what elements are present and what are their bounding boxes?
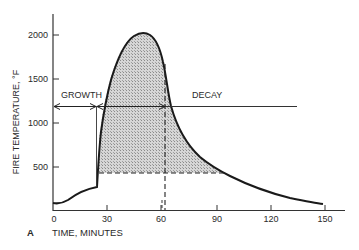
svg-text:90: 90 <box>212 214 222 224</box>
svg-text:1500: 1500 <box>28 74 48 84</box>
x-axis-label: TIME, MINUTES <box>52 227 123 238</box>
svg-text:1000: 1000 <box>28 118 48 128</box>
svg-text:500: 500 <box>33 162 48 172</box>
svg-text:0: 0 <box>51 214 56 224</box>
svg-text:60: 60 <box>156 214 166 224</box>
svg-text:150: 150 <box>317 214 332 224</box>
x-tick-labels: 0 30 60 90 120 150 <box>51 214 332 224</box>
shaded-burn-area <box>99 33 226 173</box>
decay-label: DECAY <box>192 90 222 100</box>
x-ticks <box>107 205 325 210</box>
y-axis-label: FIRE TEMPERATURE, °F <box>11 69 21 174</box>
fire-temperature-chart: 2000 1500 1000 500 0 30 60 90 120 150 TI… <box>0 0 359 250</box>
y-tick-labels: 2000 1500 1000 500 <box>28 30 48 172</box>
panel-label: A <box>27 227 34 238</box>
svg-text:30: 30 <box>102 214 112 224</box>
y-ticks <box>53 35 59 167</box>
svg-text:120: 120 <box>263 214 278 224</box>
growth-label: GROWTH <box>61 90 102 100</box>
svg-text:2000: 2000 <box>28 30 48 40</box>
temperature-curve <box>53 33 323 204</box>
